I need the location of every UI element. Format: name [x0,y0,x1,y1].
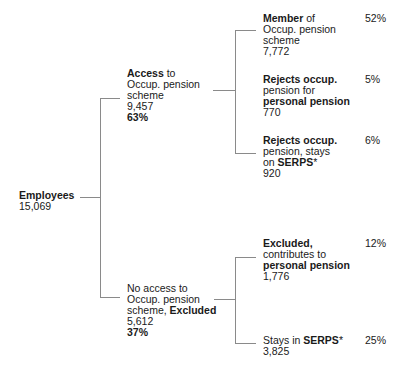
access-pct: 63% [127,111,148,123]
root-stem [80,197,100,198]
rejects-personal-pct: 5% [365,74,380,85]
no-access-stem [214,299,235,300]
no-access-tick-serps [235,343,256,344]
rejects-serps-pct: 6% [365,135,380,146]
stays-serps-count: 3,825 [263,346,343,357]
member-count: 7,772 [263,46,336,57]
access-stem [213,90,235,91]
node-rejects-serps: Rejects occup. pension, stays on SERPS* … [263,135,337,179]
excluded-personal-pct: 12% [365,238,386,249]
level1-tick-access [100,98,120,99]
rejects-serps-count: 920 [263,168,337,179]
no-access-excluded: Excluded [170,304,217,316]
no-access-bracket-vertical [235,257,236,344]
node-excluded-personal: Excluded, contributes to personal pensio… [263,238,350,282]
node-employees: Employees 15,069 [19,190,74,212]
excluded-personal-count: 1,776 [263,271,350,282]
access-tick-rejects-serps [235,153,256,154]
access-bracket-vertical [235,30,236,154]
stays-serps-serps: SERPS [303,334,339,346]
node-access: Access to Occup. pension scheme 9,457 63… [127,68,200,123]
rejects-serps-asterisk: * [313,156,317,168]
node-rejects-personal: Rejects occup. pension for personal pens… [263,74,350,118]
rejects-serps-serps: SERPS [278,156,314,168]
node-member: Member of Occup. pension scheme 7,772 [263,13,336,57]
no-access-pct: 37% [127,326,148,338]
level1-bracket-vertical [100,98,101,298]
member-pct: 52% [365,13,386,24]
stays-serps-asterisk: * [339,334,343,346]
employees-count: 15,069 [19,201,74,212]
access-tick-member [235,30,256,31]
rejects-personal-count: 770 [263,107,350,118]
node-no-access: No access to Occup. pension scheme, Excl… [127,283,216,338]
node-stays-serps: Stays in SERPS* 3,825 [263,335,343,357]
stays-serps-pct: 25% [365,335,386,346]
level1-tick-no-access [100,297,120,298]
no-access-tick-excluded [235,257,256,258]
